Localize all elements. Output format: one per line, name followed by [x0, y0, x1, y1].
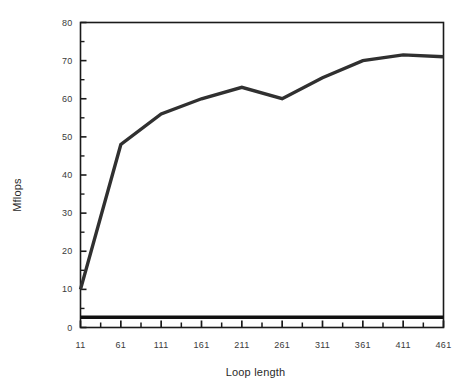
y-tick-label: 40 — [39, 170, 73, 180]
x-tick-label: 361 — [343, 340, 383, 350]
y-tick-label: 60 — [39, 94, 73, 104]
x-tick-label: 111 — [141, 340, 181, 350]
y-tick-label: 80 — [39, 18, 73, 28]
y-tick-label: 0 — [39, 323, 73, 333]
y-tick-label: 30 — [39, 208, 73, 218]
x-tick-label: 61 — [101, 340, 141, 350]
y-tick-label: 70 — [39, 56, 73, 66]
x-tick-label: 261 — [262, 340, 302, 350]
x-tick-label: 311 — [303, 340, 343, 350]
y-axis-title: Mflops — [6, 140, 28, 250]
x-tick-label: 11 — [61, 340, 101, 350]
x-tick-label: 161 — [182, 340, 222, 350]
x-axis-title: Loop length — [0, 366, 473, 378]
chart-series-line-0 — [81, 55, 444, 289]
y-tick-label: 10 — [39, 284, 73, 294]
x-axis-ticks — [81, 321, 444, 328]
chart-figure: Mflops Loop length 010203040506070801161… — [0, 0, 473, 391]
y-tick-label: 20 — [39, 246, 73, 256]
y-axis-title-text: Mflops — [11, 178, 23, 212]
x-axis-title-text: Loop length — [226, 366, 286, 378]
y-tick-label: 50 — [39, 132, 73, 142]
plot-frame — [81, 23, 444, 328]
x-tick-label: 211 — [222, 340, 262, 350]
x-tick-label: 411 — [383, 340, 423, 350]
x-tick-label: 461 — [424, 340, 464, 350]
